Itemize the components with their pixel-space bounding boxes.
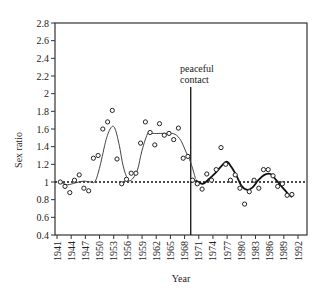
- data-point: [252, 178, 256, 182]
- annotation-contact: contact: [180, 74, 209, 85]
- plot-frame: [55, 23, 307, 235]
- data-point: [101, 127, 105, 131]
- x-tick-label: 1989: [278, 241, 289, 261]
- y-axis: 2.82.62.42.221.81.61.41.210.80.60.4: [37, 18, 56, 241]
- data-point: [115, 157, 119, 161]
- data-point: [167, 131, 171, 135]
- y-tick-label: 1.6: [37, 124, 50, 135]
- x-tick-label: 1953: [108, 241, 119, 261]
- data-point: [124, 177, 128, 181]
- data-point: [271, 174, 275, 178]
- x-tick-label: 1983: [250, 241, 261, 261]
- data-point: [58, 180, 62, 184]
- x-tick-label: 1971: [193, 241, 204, 261]
- data-point: [139, 141, 143, 145]
- data-point: [276, 184, 280, 188]
- data-point: [257, 186, 261, 190]
- x-tick-label: 1962: [151, 241, 162, 261]
- data-point: [224, 162, 228, 166]
- x-tick-label: 1965: [165, 241, 176, 261]
- data-point: [238, 186, 242, 190]
- data-point: [176, 126, 180, 130]
- x-tick-label: 1992: [293, 241, 304, 261]
- data-point: [153, 143, 157, 147]
- x-tick-label: 1941: [52, 241, 63, 261]
- data-point: [200, 187, 204, 191]
- y-tick-label: 2.2: [37, 71, 50, 82]
- y-tick-label: 1.2: [37, 159, 50, 170]
- y-tick-label: 0.4: [37, 230, 50, 241]
- data-point: [129, 171, 133, 175]
- data-point: [143, 120, 147, 124]
- y-tick-label: 1.8: [37, 106, 50, 117]
- data-point: [134, 171, 138, 175]
- x-axis-label: Year: [172, 273, 191, 284]
- x-tick-label: 1986: [264, 241, 275, 261]
- data-point: [186, 154, 190, 158]
- sex-ratio-chart: 2.82.62.42.221.81.61.41.210.80.60.4 1941…: [0, 0, 321, 295]
- data-point: [261, 168, 265, 172]
- data-point: [120, 182, 124, 186]
- x-tick-label: 1968: [179, 241, 190, 261]
- data-point: [290, 192, 294, 196]
- y-tick-label: 0.6: [37, 212, 50, 223]
- data-point: [228, 178, 232, 182]
- data-point: [162, 133, 166, 137]
- data-point: [219, 146, 223, 150]
- data-points: [58, 108, 294, 206]
- y-tick-label: 2.6: [37, 35, 50, 46]
- x-tick-label: 1947: [80, 241, 91, 261]
- data-point: [82, 186, 86, 190]
- x-tick-label: 1980: [236, 241, 247, 261]
- x-tick-label: 1944: [66, 241, 77, 261]
- data-point: [243, 202, 247, 206]
- data-point: [172, 138, 176, 142]
- data-point: [72, 178, 76, 182]
- data-point: [110, 108, 114, 112]
- data-point: [209, 178, 213, 182]
- data-point: [191, 178, 195, 182]
- y-tick-label: 0.8: [37, 194, 50, 205]
- y-tick-label: 2: [44, 88, 49, 99]
- data-point: [77, 173, 81, 177]
- data-point: [285, 193, 289, 197]
- data-point: [106, 120, 110, 124]
- y-axis-label: Sex ratio: [13, 132, 24, 168]
- data-point: [233, 173, 237, 177]
- y-tick-label: 2.8: [37, 18, 50, 29]
- data-point: [181, 156, 185, 160]
- data-point: [266, 168, 270, 172]
- y-tick-label: 2.4: [37, 53, 50, 64]
- data-point: [205, 172, 209, 176]
- y-tick-label: 1: [44, 177, 49, 188]
- data-point: [214, 168, 218, 172]
- data-point: [96, 153, 100, 157]
- annotation-peaceful: peaceful: [180, 63, 214, 74]
- data-point: [63, 184, 67, 188]
- data-point: [148, 130, 152, 134]
- data-point: [91, 156, 95, 160]
- x-tick-label: 1956: [122, 241, 133, 261]
- x-axis: 1941194419471950195319561959196219651968…: [52, 235, 304, 261]
- data-point: [157, 122, 161, 126]
- data-point: [68, 191, 72, 195]
- x-tick-label: 1950: [94, 241, 105, 261]
- x-tick-label: 1974: [207, 241, 218, 261]
- x-tick-label: 1959: [137, 241, 148, 261]
- data-point: [87, 189, 91, 193]
- data-point: [195, 182, 199, 186]
- data-point: [280, 182, 284, 186]
- y-tick-label: 1.4: [37, 141, 50, 152]
- data-point: [247, 190, 251, 194]
- x-tick-label: 1977: [222, 241, 233, 261]
